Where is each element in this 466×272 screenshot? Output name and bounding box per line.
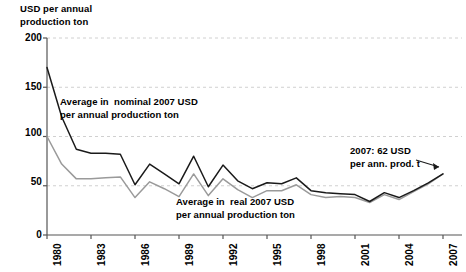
chart-container: USD per annualproduction ton 200 150 100… <box>0 0 466 272</box>
annotation-real-series: Average in real 2007 USDper annual produ… <box>176 196 295 221</box>
annotation-nominal-line2: per annual production ton <box>60 109 179 120</box>
plot-area <box>0 0 466 272</box>
annotation-real-line2: per annual production ton <box>176 209 295 220</box>
annotation-nominal-series: Average in nominal 2007 USDper annual pr… <box>60 96 198 121</box>
annotation-2007-callout: 2007: 62 USDper ann. prod. t <box>350 145 420 170</box>
annotation-nominal-line1: Average in nominal 2007 USD <box>60 96 198 107</box>
x-tick-marks <box>47 235 443 239</box>
annotation-callout-line1: 2007: 62 USD <box>350 145 411 156</box>
data-series-group <box>47 68 443 203</box>
annotation-callout-line2: per ann. prod. t <box>350 158 420 169</box>
annotation-real-line1: Average in real 2007 USD <box>176 196 294 207</box>
